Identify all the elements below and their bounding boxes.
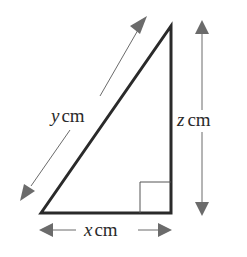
arrowhead-up-right-icon xyxy=(130,16,147,34)
arrowhead-left-icon xyxy=(39,223,53,237)
right-angle-marker xyxy=(140,182,171,213)
right-triangle-diagram: ycm zcm xcm xyxy=(0,0,247,257)
horizontal-side-label: xcm xyxy=(83,219,118,240)
arrowhead-right-icon xyxy=(158,223,172,237)
arrowhead-down-icon xyxy=(195,202,209,216)
vertical-side-label: zcm xyxy=(176,109,211,130)
arrowhead-down-left-icon xyxy=(20,184,35,201)
arrowhead-up-icon xyxy=(195,20,209,34)
hypotenuse-label: ycm xyxy=(49,105,85,126)
